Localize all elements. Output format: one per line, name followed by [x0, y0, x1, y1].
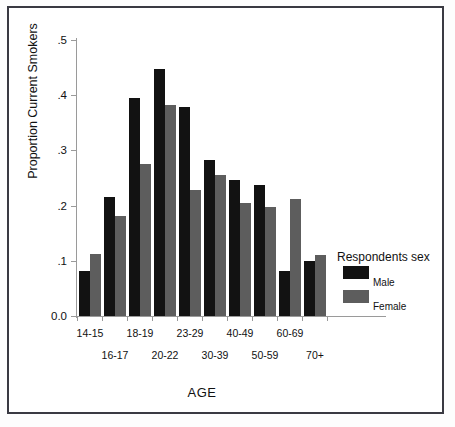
x-tick-mark	[127, 316, 128, 321]
x-tick-label-40-49: 40-49	[227, 327, 254, 339]
x-tick-mark	[177, 316, 178, 321]
y-tick-mark	[71, 40, 76, 41]
bar-group	[129, 40, 151, 316]
x-tick-label-18-19: 18-19	[127, 327, 154, 339]
y-tick-label: .2	[57, 200, 67, 212]
bar-male-50-59	[254, 185, 265, 316]
bar-male-18-19	[129, 98, 140, 316]
x-tick-label-30-39: 30-39	[202, 349, 229, 361]
x-tick-mark	[77, 316, 78, 321]
bar-female-60-69	[290, 199, 301, 316]
legend-label-female: Female	[373, 301, 406, 312]
legend-label-male: Male	[373, 277, 395, 288]
bar-group	[279, 40, 301, 316]
x-tick-mark	[277, 316, 278, 321]
y-tick-mark	[71, 261, 76, 262]
legend-entry-female: Female	[337, 290, 455, 314]
y-tick-mark	[71, 150, 76, 151]
bar-group	[229, 40, 251, 316]
x-tick-mark	[252, 316, 253, 321]
y-tick-label: .3	[57, 144, 67, 156]
chart-frame: 0.0.1.2.3.4.5 Proportion Current Smokers…	[7, 6, 444, 414]
legend-title: Respondents sex	[337, 250, 455, 264]
x-tick-mark	[227, 316, 228, 321]
x-tick-mark	[327, 316, 328, 321]
bar-male-23-29	[179, 107, 190, 316]
bar-group	[154, 40, 176, 316]
figure-canvas: 0.0.1.2.3.4.5 Proportion Current Smokers…	[0, 0, 455, 427]
legend-entry-male: Male	[337, 266, 455, 290]
y-tick-mark	[71, 206, 76, 207]
x-tick-mark	[152, 316, 153, 321]
x-tick-label-20-22: 20-22	[152, 349, 179, 361]
x-tick-label-23-29: 23-29	[177, 327, 204, 339]
bar-group	[104, 40, 126, 316]
bar-male-40-49	[229, 180, 240, 316]
bar-group	[204, 40, 226, 316]
bar-female-30-39	[215, 175, 226, 316]
plot-area	[77, 40, 327, 316]
x-axis-line	[76, 316, 386, 317]
bar-group	[304, 40, 326, 316]
x-tick-label-16-17: 16-17	[102, 349, 129, 361]
y-tick-label: .4	[57, 89, 67, 101]
bar-group	[79, 40, 101, 316]
bar-male-20-22	[154, 69, 165, 316]
x-tick-mark	[302, 316, 303, 321]
x-tick-label-70+: 70+	[306, 349, 324, 361]
y-tick-mark	[71, 316, 76, 317]
bar-series-container	[77, 40, 327, 316]
bar-group	[254, 40, 276, 316]
x-tick-label-14-15: 14-15	[77, 327, 104, 339]
bar-female-50-59	[265, 207, 276, 316]
y-tick-mark	[71, 95, 76, 96]
bar-male-30-39	[204, 160, 215, 316]
legend: Respondents sex Male Female	[337, 250, 455, 314]
x-tick-mark	[102, 316, 103, 321]
bar-female-23-29	[190, 190, 201, 316]
bar-male-60-69	[279, 271, 290, 316]
bar-female-18-19	[140, 164, 151, 316]
bar-group	[179, 40, 201, 316]
bar-female-20-22	[165, 105, 176, 316]
bar-female-40-49	[240, 203, 251, 316]
y-tick-label: .5	[57, 34, 67, 46]
x-tick-label-50-59: 50-59	[252, 349, 279, 361]
bar-female-16-17	[115, 216, 126, 316]
bar-male-70+	[304, 261, 315, 316]
legend-swatch-female	[343, 290, 369, 303]
x-axis-title: AGE	[77, 385, 327, 400]
bar-male-16-17	[104, 197, 115, 316]
y-tick-label: .1	[57, 255, 67, 267]
legend-swatch-male	[343, 266, 369, 279]
y-axis-title: Proportion Current Smokers	[26, 1, 40, 201]
x-tick-mark	[202, 316, 203, 321]
x-tick-label-60-69: 60-69	[277, 327, 304, 339]
bar-male-14-15	[79, 271, 90, 316]
y-tick-label: 0.0	[51, 310, 67, 322]
bar-female-14-15	[90, 254, 101, 316]
bar-female-70+	[315, 255, 326, 316]
